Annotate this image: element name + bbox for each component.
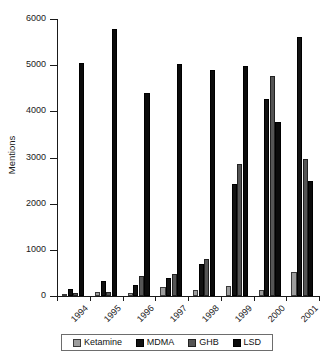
bar-lsd-1998 bbox=[210, 70, 215, 296]
y-axis-tick bbox=[50, 204, 57, 205]
y-axis-tick-label: 2000 bbox=[8, 199, 46, 208]
x-axis-tick bbox=[221, 296, 222, 301]
bar-mdma-1994 bbox=[68, 289, 73, 296]
legend-swatch-icon bbox=[233, 339, 241, 347]
y-axis-tick bbox=[50, 250, 57, 251]
bar-ghb-1999 bbox=[237, 164, 242, 296]
bar-mdma-1999 bbox=[232, 184, 237, 296]
x-axis-tick-label: 1999 bbox=[227, 303, 254, 330]
bar-ketamine-1994 bbox=[62, 294, 67, 296]
y-axis-tick-label: 0 bbox=[8, 291, 46, 300]
bar-lsd-1997 bbox=[177, 64, 182, 296]
y-axis-tick bbox=[50, 65, 57, 66]
legend-label: Ketamine bbox=[84, 338, 122, 347]
bar-ghb-2001 bbox=[303, 159, 308, 296]
bar-ketamine-1996 bbox=[128, 293, 133, 296]
x-axis-tick bbox=[319, 296, 320, 301]
legend-item-mdma[interactable]: MDMA bbox=[136, 338, 175, 347]
y-axis-tick-label: 3000 bbox=[8, 153, 46, 162]
bar-ketamine-1995 bbox=[95, 292, 100, 296]
bar-ghb-1995 bbox=[106, 292, 111, 296]
plot-area bbox=[57, 19, 319, 296]
x-axis-tick-label: 1998 bbox=[195, 303, 222, 330]
bar-lsd-1994 bbox=[79, 63, 84, 296]
legend-label: MDMA bbox=[147, 338, 175, 347]
legend-item-ketamine[interactable]: Ketamine bbox=[73, 338, 122, 347]
y-axis-tick-label: 5000 bbox=[8, 60, 46, 69]
legend-label: LSD bbox=[244, 338, 262, 347]
bar-ghb-1997 bbox=[172, 274, 177, 296]
x-axis-tick-label: 1994 bbox=[64, 303, 91, 330]
y-axis-tick bbox=[50, 19, 57, 20]
y-axis-tick bbox=[50, 111, 57, 112]
x-axis-tick-label: 1996 bbox=[129, 303, 156, 330]
x-axis-tick bbox=[123, 296, 124, 301]
bar-lsd-2001 bbox=[308, 181, 313, 296]
y-axis-tick-label: 6000 bbox=[8, 14, 46, 23]
y-axis-tick bbox=[50, 158, 57, 159]
bar-lsd-1996 bbox=[144, 93, 149, 296]
legend-label: GHB bbox=[199, 338, 219, 347]
x-axis-tick bbox=[90, 296, 91, 301]
x-axis-tick bbox=[254, 296, 255, 301]
x-axis-tick-label: 1995 bbox=[96, 303, 123, 330]
bar-ghb-1998 bbox=[204, 259, 209, 296]
x-axis-tick bbox=[188, 296, 189, 301]
bar-ketamine-1997 bbox=[160, 287, 165, 296]
x-axis-tick bbox=[57, 296, 58, 301]
bar-ketamine-2000 bbox=[259, 290, 264, 296]
legend-swatch-icon bbox=[136, 339, 144, 347]
y-axis-tick bbox=[50, 296, 57, 297]
bar-ketamine-2001 bbox=[291, 272, 296, 296]
legend-item-lsd[interactable]: LSD bbox=[233, 338, 262, 347]
y-axis-tick-label: 1000 bbox=[8, 245, 46, 254]
legend-item-ghb[interactable]: GHB bbox=[188, 338, 219, 347]
bar-mdma-1998 bbox=[199, 264, 204, 296]
x-axis-tick-label: 2000 bbox=[260, 303, 287, 330]
bar-lsd-1999 bbox=[243, 66, 248, 296]
x-axis-tick bbox=[155, 296, 156, 301]
legend-swatch-icon bbox=[73, 339, 81, 347]
bar-ghb-1996 bbox=[139, 276, 144, 296]
chart-legend: KetamineMDMAGHBLSD bbox=[61, 334, 273, 351]
bar-mdma-2001 bbox=[297, 37, 302, 296]
bar-mdma-1997 bbox=[166, 278, 171, 296]
bar-mdma-1995 bbox=[101, 281, 106, 296]
bar-ketamine-1999 bbox=[226, 286, 231, 296]
y-axis-tick-label: 4000 bbox=[8, 106, 46, 115]
x-axis-tick-label: 2001 bbox=[293, 303, 320, 330]
legend-swatch-icon bbox=[188, 339, 196, 347]
x-axis-tick-label: 1997 bbox=[162, 303, 189, 330]
bar-ghb-2000 bbox=[270, 76, 275, 296]
bar-ketamine-1998 bbox=[193, 290, 198, 296]
bar-chart: Mentions 0100020003000400050006000 19941… bbox=[0, 0, 332, 357]
bar-lsd-2000 bbox=[275, 122, 280, 297]
x-axis-tick bbox=[286, 296, 287, 301]
bar-ghb-1994 bbox=[73, 293, 78, 296]
bar-mdma-2000 bbox=[264, 99, 269, 296]
bar-lsd-1995 bbox=[112, 29, 117, 296]
bar-mdma-1996 bbox=[133, 285, 138, 296]
